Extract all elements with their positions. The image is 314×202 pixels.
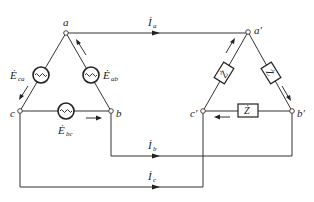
svg-text:ab: ab bbox=[111, 75, 119, 83]
node-c bbox=[18, 109, 23, 114]
svg-text:b: b bbox=[153, 145, 157, 153]
label-node-a-prime: a′ bbox=[254, 24, 263, 36]
label-node-a: a bbox=[63, 16, 69, 28]
node-b bbox=[109, 109, 114, 114]
label-node-b: b bbox=[116, 107, 122, 119]
label-I-b: İ b bbox=[147, 139, 157, 153]
source-delta bbox=[19, 33, 111, 121]
label-Z-bc: Ż bbox=[244, 105, 250, 116]
svg-text:a: a bbox=[153, 22, 157, 30]
node-a bbox=[64, 31, 69, 36]
label-I-c: İ c bbox=[147, 170, 157, 184]
line-a bbox=[66, 31, 248, 36]
svg-text:Ė: Ė bbox=[9, 69, 17, 81]
node-b-prime bbox=[290, 109, 295, 114]
source-E-ca bbox=[33, 67, 49, 83]
label-I-a: İ a bbox=[147, 16, 157, 30]
arrow-icon bbox=[152, 31, 160, 36]
arrow-icon bbox=[152, 154, 160, 159]
node-a-prime bbox=[246, 30, 251, 35]
arrow-icon bbox=[152, 185, 160, 190]
svg-text:Ė: Ė bbox=[102, 69, 110, 81]
label-E-ca: Ė ca bbox=[9, 69, 25, 83]
arrow-icon bbox=[214, 115, 230, 120]
arrow-icon bbox=[86, 116, 102, 121]
label-E-bc: Ė bc bbox=[57, 124, 74, 138]
line-b bbox=[111, 111, 292, 159]
node-c-prime bbox=[201, 109, 206, 114]
source-E-bc bbox=[58, 103, 74, 119]
label-node-b-prime: b′ bbox=[297, 107, 306, 119]
source-E-ab bbox=[83, 67, 99, 83]
arrow-icon bbox=[282, 86, 291, 101]
label-E-ab: Ė ab bbox=[102, 69, 119, 83]
arrow-icon bbox=[19, 86, 28, 100]
svg-text:bc: bc bbox=[66, 130, 74, 138]
svg-text:ca: ca bbox=[18, 75, 25, 83]
circuit-diagram: a c b a′ c′ b′ Ė ca Ė ab Ė bc Ż Ż Ż İ a … bbox=[0, 0, 314, 202]
label-node-c-prime: c′ bbox=[190, 107, 198, 119]
svg-text:Ė: Ė bbox=[57, 124, 65, 136]
svg-text:c: c bbox=[153, 176, 157, 184]
arrow-icon bbox=[226, 38, 235, 53]
label-node-c: c bbox=[10, 107, 15, 119]
